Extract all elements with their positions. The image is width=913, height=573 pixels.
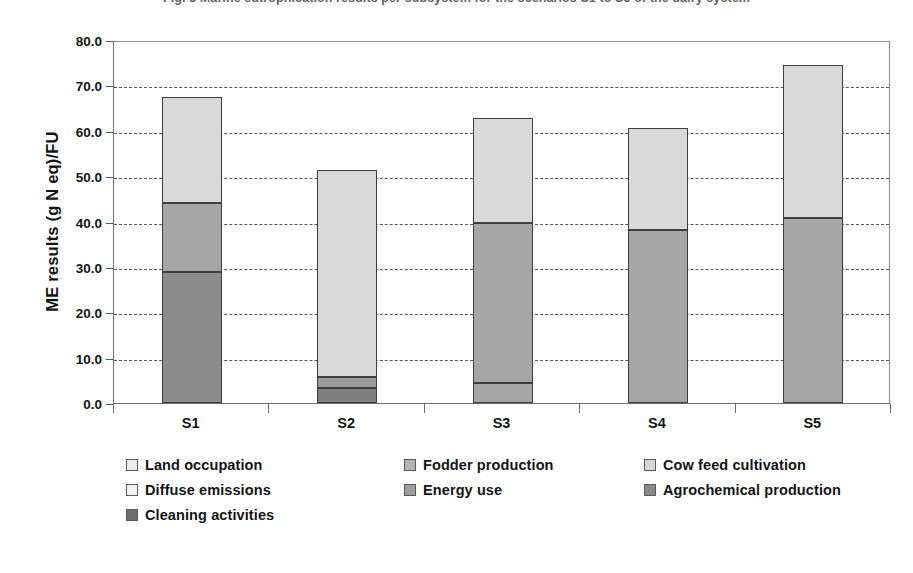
plot-area	[113, 41, 890, 404]
legend-swatch-icon	[126, 509, 138, 521]
legend-swatch-icon	[644, 459, 656, 471]
bar-group[interactable]	[162, 40, 222, 403]
x-axis-tick-label: S3	[442, 415, 562, 431]
chart-legend: Land occupationFodder productionCow feed…	[126, 452, 896, 527]
legend-label: Land occupation	[145, 457, 263, 473]
y-axis-tick-label: 30.0	[52, 260, 102, 275]
legend-row: Land occupationFodder productionCow feed…	[126, 452, 896, 477]
bar-segment[interactable]	[317, 377, 377, 388]
bar-group[interactable]	[473, 40, 533, 403]
x-axis-tick	[735, 404, 736, 413]
legend-label: Agrochemical production	[663, 482, 841, 498]
legend-row: Cleaning activities	[126, 502, 896, 527]
x-axis-tick-label: S5	[752, 415, 872, 431]
legend-swatch-icon	[404, 484, 416, 496]
bar-segment[interactable]	[783, 65, 843, 218]
legend-label: Cleaning activities	[145, 507, 274, 523]
x-axis-tick-label: S1	[131, 415, 251, 431]
bar-segment[interactable]	[317, 388, 377, 403]
legend-label: Energy use	[423, 482, 502, 498]
x-axis-tick	[268, 404, 269, 413]
legend-swatch-icon	[126, 484, 138, 496]
x-axis-tick	[424, 404, 425, 413]
legend-swatch-icon	[126, 459, 138, 471]
bar-segment[interactable]	[162, 97, 222, 203]
y-axis-tick-label: 80.0	[52, 34, 102, 49]
x-axis-tick	[579, 404, 580, 413]
y-axis-tick-label: 20.0	[52, 306, 102, 321]
legend-item[interactable]: Agrochemical production	[644, 482, 896, 498]
legend-item[interactable]: Land occupation	[126, 457, 404, 473]
legend-item[interactable]: Cleaning activities	[126, 507, 404, 523]
y-axis-tick-label: 40.0	[52, 215, 102, 230]
legend-item[interactable]: Energy use	[404, 482, 644, 498]
legend-item[interactable]: Cow feed cultivation	[644, 457, 896, 473]
bar-segment[interactable]	[783, 218, 843, 403]
x-axis-tick-label: S2	[286, 415, 406, 431]
bar-segment[interactable]	[473, 383, 533, 403]
bar-segment[interactable]	[162, 203, 222, 272]
bar-segment[interactable]	[473, 118, 533, 223]
bar-segment[interactable]	[628, 128, 688, 229]
legend-swatch-icon	[644, 484, 656, 496]
y-axis-tick-label: 70.0	[52, 79, 102, 94]
bar-group[interactable]	[317, 40, 377, 403]
y-axis-tick-label: 60.0	[52, 124, 102, 139]
y-axis-tick-label: 10.0	[52, 351, 102, 366]
y-axis-tick-label: 50.0	[52, 170, 102, 185]
bar-segment[interactable]	[317, 170, 377, 376]
bar-segment[interactable]	[473, 223, 533, 384]
x-axis-tick-label: S4	[597, 415, 717, 431]
legend-swatch-icon	[404, 459, 416, 471]
legend-item[interactable]: Fodder production	[404, 457, 644, 473]
legend-label: Fodder production	[423, 457, 554, 473]
bar-group[interactable]	[783, 40, 843, 403]
bar-group[interactable]	[628, 40, 688, 403]
legend-row: Diffuse emissionsEnergy useAgrochemical …	[126, 477, 896, 502]
legend-item[interactable]: Diffuse emissions	[126, 482, 404, 498]
legend-label: Cow feed cultivation	[663, 457, 806, 473]
bar-segment[interactable]	[628, 230, 688, 403]
chart-figure: ME results (g N eq)/FU 80.070.060.050.04…	[0, 0, 913, 573]
bar-segment[interactable]	[162, 272, 222, 403]
legend-label: Diffuse emissions	[145, 482, 271, 498]
x-axis-tick	[890, 404, 891, 413]
y-axis-tick-label: 0.0	[52, 397, 102, 412]
x-axis-tick	[113, 404, 114, 413]
